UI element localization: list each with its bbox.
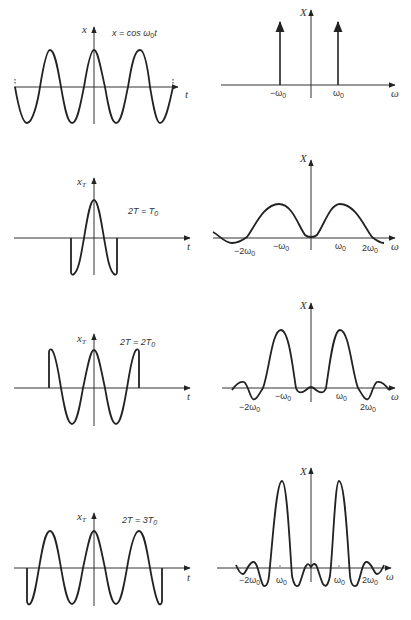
tick-subscript: 0 (343, 395, 347, 402)
tick-subscript: 0 (374, 579, 378, 586)
annotation-text: 2T = T (128, 206, 154, 216)
y-axis-label: X (300, 7, 307, 18)
tick-text: −ω (275, 391, 287, 401)
omega-axis-label: ω (386, 571, 394, 582)
tick-pos-2omega0: 2ω0 (362, 244, 378, 254)
tick-neg-omega0: −ω0 (275, 392, 291, 402)
y-axis-label: xT (77, 176, 86, 189)
y-axis-label: xT (77, 511, 86, 524)
panel-row1-freq (221, 10, 395, 98)
tick-text: ω (336, 391, 343, 401)
annotation-text: 2T = 2T (120, 337, 151, 347)
tick-subscript: 0 (251, 250, 255, 257)
t-axis-label: t (187, 391, 190, 402)
tick-text: −ω (273, 241, 285, 251)
t-axis-label: t (187, 241, 190, 252)
omega-axis-label: ω (391, 391, 399, 402)
tick-pos-2omega0: 2ω0 (360, 403, 376, 413)
tick-pos-omega0: ω0 (335, 242, 346, 252)
duration-annotation: 2T = 3T0 (122, 516, 157, 526)
tick-text: 2ω (360, 402, 372, 412)
t-axis-label: t (185, 89, 188, 100)
panel-row2-time (14, 178, 190, 275)
tick-text: ω (334, 575, 341, 585)
t-axis-label: t (187, 572, 190, 583)
tick-text: −2ω (234, 246, 251, 256)
tick-pos-omega0: ω0 (336, 392, 347, 402)
y-axis-label: xT (77, 333, 86, 346)
tick-dot (338, 565, 340, 567)
panel-row2-freq (213, 160, 395, 250)
tick-text: ω (333, 88, 340, 98)
duration-annotation: 2T = T0 (128, 207, 158, 217)
spectrum-curve (236, 481, 384, 586)
tick-text: ω (335, 241, 342, 251)
tick-subscript: 0 (285, 245, 289, 252)
tick-neg-2omega0: −2ω0 (234, 247, 255, 257)
tick-text: −2ω (239, 575, 256, 585)
omega-axis-label: ω (391, 88, 399, 99)
tick-subscript: 0 (374, 247, 378, 254)
tick-subscript: 0 (287, 395, 291, 402)
tick-pos-omega0: ω0 (334, 576, 345, 586)
y-axis-label: X (300, 153, 307, 164)
panel-row3-time (14, 334, 190, 426)
tick-subscript: 0 (342, 245, 346, 252)
annotation-text: 2T = 3T (122, 515, 153, 525)
tick-subscript: 0 (283, 579, 287, 586)
y-label-subscript: T (82, 181, 86, 189)
y-axis-label: X (300, 300, 307, 311)
annotation-subscript: 0 (154, 210, 158, 217)
tick-neg-2omega0: −2ω0 (239, 576, 260, 586)
tick-subscript: 0 (372, 406, 376, 413)
equation-label: x = cos ω0t (112, 29, 157, 39)
duration-annotation: 2T = 2T0 (120, 338, 155, 348)
tick-text: 2ω (362, 243, 374, 253)
panel-row3-freq (222, 303, 395, 402)
panel-row4-time (14, 513, 190, 606)
panel-row4-freq (217, 468, 391, 586)
annotation-subscript: 0 (153, 519, 157, 526)
figure-canvas (0, 0, 411, 620)
tick-subscript: 0 (256, 406, 260, 413)
spectrum-curve (213, 204, 384, 243)
tick-text: 2ω (362, 575, 374, 585)
tick-subscript: 0 (282, 92, 286, 99)
annotation-subscript: 0 (151, 341, 155, 348)
tick-text: ω (276, 575, 283, 585)
tick-text: −ω (270, 88, 282, 98)
tick-pos-omega0: ω0 (333, 89, 344, 99)
y-axis-label: x (82, 24, 87, 35)
tick-text: −2ω (239, 402, 256, 412)
tick-dot (279, 565, 281, 567)
tick-neg-omega0: −ω0 (270, 89, 286, 99)
tick-neg-2omega0: −2ω0 (239, 403, 260, 413)
equation-text: x = cos ω (112, 28, 150, 38)
omega-axis-label: ω (391, 241, 399, 252)
equation-variable: t (154, 28, 157, 38)
tick-subscript: 0 (341, 579, 345, 586)
tick-subscript: 0 (340, 92, 344, 99)
tick-subscript: 0 (256, 579, 260, 586)
tick-pos-2omega0: 2ω0 (362, 576, 378, 586)
tick-neg-omega0: ω0 (276, 576, 287, 586)
y-axis-label: X (300, 466, 307, 477)
y-label-subscript: T (82, 516, 86, 524)
tick-neg-omega0: −ω0 (273, 242, 289, 252)
y-label-subscript: T (82, 338, 86, 346)
panel-row1-time (14, 27, 178, 124)
